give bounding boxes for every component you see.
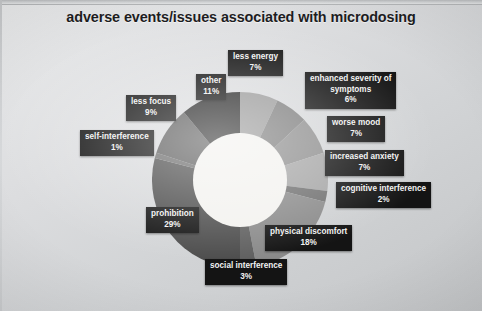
page-title: adverse events/issues associated with mi… <box>0 9 482 25</box>
slice-label-name: social interference <box>210 261 282 272</box>
chart-screenshot: adverse events/issues associated with mi… <box>0 0 482 311</box>
slice-label-name: less energy <box>233 52 278 63</box>
slice-label-social-interference[interactable]: social interference 3% <box>205 259 287 285</box>
slice-label-value: 29% <box>151 220 194 231</box>
slice-label-name: increased anxiety <box>330 152 399 163</box>
slice-label-worse-mood[interactable]: worse mood 7% <box>327 116 385 142</box>
donut-hole <box>193 133 287 227</box>
slice-label-value: 18% <box>270 238 347 249</box>
left-border-strip <box>0 0 2 311</box>
slice-label-value: 1% <box>85 143 149 154</box>
slice-label-value: 7% <box>233 63 278 74</box>
slice-label-other[interactable]: other 11% <box>196 74 226 100</box>
slice-label-name: worse mood <box>332 118 380 129</box>
slice-label-enhanced-severity-of-symptoms[interactable]: enhanced severity of symptoms 6% <box>305 72 396 109</box>
slice-label-value: 9% <box>131 108 171 119</box>
slice-label-increased-anxiety[interactable]: increased anxiety 7% <box>325 150 404 176</box>
top-border-strip <box>0 0 482 5</box>
slice-label-name: less focus <box>131 97 171 108</box>
slice-label-less-energy[interactable]: less energy 7% <box>228 50 283 76</box>
slice-label-name: self-interference <box>85 132 149 143</box>
slice-label-value: 3% <box>210 272 282 283</box>
slice-label-less-focus[interactable]: less focus 9% <box>126 95 176 121</box>
slice-label-value: 7% <box>332 129 380 140</box>
slice-label-value: 7% <box>330 163 399 174</box>
slice-label-name: physical discomfort <box>270 227 347 238</box>
slice-label-name: prohibition <box>151 209 194 220</box>
slice-label-prohibition[interactable]: prohibition 29% <box>146 207 199 233</box>
slice-label-cognitive-interference[interactable]: cognitive interference 2% <box>336 182 431 208</box>
slice-label-self-interference[interactable]: self-interference 1% <box>80 130 154 156</box>
slice-label-value: 11% <box>201 87 221 98</box>
slice-label-name: cognitive interference <box>341 184 426 195</box>
slice-label-physical-discomfort[interactable]: physical discomfort 18% <box>265 225 352 251</box>
slice-label-value: 2% <box>341 195 426 206</box>
slice-label-value: 6% <box>310 95 391 106</box>
slice-label-name-line2: symptoms <box>310 85 391 96</box>
slice-label-name: enhanced severity of <box>310 74 391 85</box>
slice-label-name: other <box>201 76 221 87</box>
